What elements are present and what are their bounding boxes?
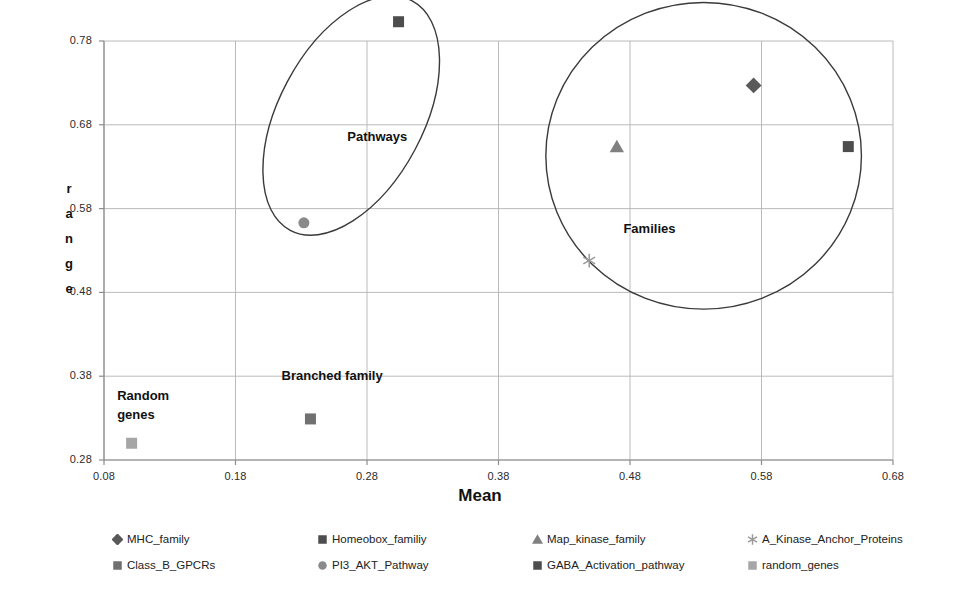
data-point-gaba_activation_pathway bbox=[393, 16, 404, 27]
legend-swatch-square bbox=[748, 561, 757, 570]
data-point-random_genes bbox=[126, 438, 137, 449]
legend-swatch-square bbox=[113, 561, 122, 570]
legend-item-mhc_family[interactable]: MHC_family bbox=[112, 533, 190, 545]
legend-item-label: MHC_family bbox=[127, 533, 190, 545]
legend-item-label: GABA_Activation_pathway bbox=[547, 559, 684, 571]
y-axis-title-letter: e bbox=[58, 276, 80, 301]
legend-marker-square-icon bbox=[112, 560, 123, 571]
legend-item-class_b_gpcrs[interactable]: Class_B_GPCRs bbox=[112, 559, 215, 571]
data-point-map_kinase_family bbox=[610, 140, 624, 152]
legend-marker-circle-icon bbox=[317, 560, 328, 571]
legend-item-label: A_Kinase_Anchor_Proteins bbox=[762, 533, 903, 545]
legend-swatch-triangle bbox=[532, 534, 543, 544]
legend-marker-square-icon bbox=[747, 560, 758, 571]
annotation-random-genes: Random genes bbox=[117, 386, 201, 424]
data-point-mhc_family bbox=[746, 77, 762, 93]
axis-tick-marks bbox=[99, 41, 893, 465]
legend-marker-square-icon bbox=[532, 560, 543, 571]
legend-swatch-circle bbox=[318, 561, 327, 570]
scatter-chart-figure: 0.780.680.580.480.380.28 0.080.180.280.3… bbox=[0, 0, 957, 610]
x-tick-label: 0.18 bbox=[210, 470, 262, 482]
legend-item-homeobox_familiy[interactable]: Homeobox_familiy bbox=[317, 533, 427, 545]
legend-item-gaba_activation_pathway[interactable]: GABA_Activation_pathway bbox=[532, 559, 684, 571]
data-point-homeobox_familiy bbox=[843, 141, 854, 152]
data-point-class_b_gpcrs bbox=[305, 413, 316, 424]
legend-marker-diamond-icon bbox=[112, 534, 123, 545]
legend-marker-triangle-icon bbox=[532, 534, 543, 545]
annotation-branched-family: Branched family bbox=[282, 368, 383, 383]
x-tick-label: 0.38 bbox=[473, 470, 525, 482]
y-tick-label: 0.68 bbox=[46, 118, 92, 130]
legend-marker-asterisk-icon bbox=[747, 534, 758, 545]
y-axis-title-letter: a bbox=[58, 201, 80, 226]
plot-canvas bbox=[0, 0, 957, 610]
legend-item-map_kinase_family[interactable]: Map_kinase_family bbox=[532, 533, 645, 545]
annotation-pathways: Pathways bbox=[347, 129, 407, 144]
y-tick-label: 0.78 bbox=[46, 34, 92, 46]
legend-item-pi3_akt_pathway[interactable]: PI3_AKT_Pathway bbox=[317, 559, 429, 571]
x-tick-label: 0.48 bbox=[604, 470, 656, 482]
y-tick-label: 0.38 bbox=[46, 369, 92, 381]
legend-item-random_genes[interactable]: random_genes bbox=[747, 559, 839, 571]
y-axis-title-letter: n bbox=[58, 226, 80, 251]
legend-item-a_kinase_anchor_proteins[interactable]: A_Kinase_Anchor_Proteins bbox=[747, 533, 903, 545]
y-axis-title-letter: r bbox=[58, 176, 80, 201]
data-point-pi3_akt_pathway bbox=[298, 217, 309, 228]
legend-item-label: Class_B_GPCRs bbox=[127, 559, 215, 571]
legend-item-label: Homeobox_familiy bbox=[332, 533, 427, 545]
annotation-families: Families bbox=[623, 221, 675, 236]
chart-legend: MHC_familyHomeobox_familiyMap_kinase_fam… bbox=[112, 533, 902, 593]
x-tick-label: 0.68 bbox=[867, 470, 919, 482]
gridlines bbox=[104, 41, 893, 460]
cluster-ellipses bbox=[226, 0, 861, 309]
x-axis-title: Mean bbox=[380, 486, 580, 506]
x-tick-label: 0.28 bbox=[341, 470, 393, 482]
legend-marker-square-icon bbox=[317, 534, 328, 545]
legend-swatch-square bbox=[533, 561, 542, 570]
legend-item-label: random_genes bbox=[762, 559, 839, 571]
y-axis-title-letter: g bbox=[58, 251, 80, 276]
legend-item-label: PI3_AKT_Pathway bbox=[332, 559, 429, 571]
legend-swatch-asterisk bbox=[748, 534, 757, 545]
x-tick-label: 0.08 bbox=[78, 470, 130, 482]
y-axis-title: range bbox=[58, 176, 80, 301]
legend-swatch-square bbox=[318, 535, 327, 544]
legend-item-label: Map_kinase_family bbox=[547, 533, 645, 545]
y-tick-label: 0.28 bbox=[46, 453, 92, 465]
legend-swatch-diamond bbox=[112, 534, 123, 545]
x-tick-label: 0.58 bbox=[736, 470, 788, 482]
